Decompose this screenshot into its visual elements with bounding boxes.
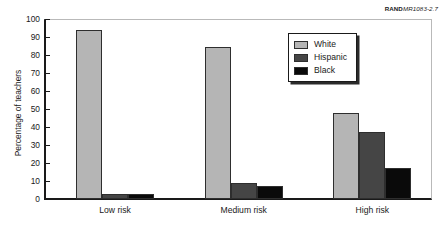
bar-black-medium-risk xyxy=(257,186,283,199)
legend-label-white: White xyxy=(314,40,336,49)
legend-swatch-black xyxy=(294,67,308,75)
y-tick-label: 50 xyxy=(31,104,40,114)
rand-source-id: RANDMR1083-2.7 xyxy=(385,5,438,12)
x-axis-label-medium-risk: Medium risk xyxy=(194,205,294,215)
legend-label-black: Black xyxy=(314,66,335,75)
x-axis-label-high-risk: High risk xyxy=(322,205,422,215)
legend-item-hispanic: Hispanic xyxy=(294,51,347,64)
bar-group-medium-risk xyxy=(205,19,283,199)
legend-label-hispanic: Hispanic xyxy=(314,53,347,62)
bar-black-high-risk xyxy=(385,168,411,199)
y-axis-title: Percentage of teachers xyxy=(13,33,23,193)
y-tick-label: 30 xyxy=(31,140,40,150)
y-tick-label: 40 xyxy=(31,122,40,132)
legend-swatch-hispanic xyxy=(294,54,308,62)
y-tick-label: 20 xyxy=(31,158,40,168)
y-tick-label: 80 xyxy=(31,50,40,60)
y-tick-label: 10 xyxy=(31,176,40,186)
y-tick-label: 100 xyxy=(26,14,40,24)
legend-item-black: Black xyxy=(294,64,347,77)
rand-source-id-bold: RAND xyxy=(385,5,403,12)
bar-hispanic-high-risk xyxy=(359,132,385,199)
bar-black-low-risk xyxy=(128,194,154,199)
bar-hispanic-medium-risk xyxy=(231,183,257,199)
y-tick-label: 60 xyxy=(31,86,40,96)
legend-swatch-white xyxy=(294,41,308,49)
y-tick-label: 90 xyxy=(31,32,40,42)
bar-white-high-risk xyxy=(333,113,359,199)
bar-group-low-risk xyxy=(76,19,154,199)
bar-white-low-risk xyxy=(76,30,102,199)
legend-item-white: White xyxy=(294,38,347,51)
figure-container: RANDMR1083-2.7 Percentage of teachers 10… xyxy=(0,0,442,252)
rand-source-id-italic: MR1083-2.7 xyxy=(403,5,438,12)
bar-hispanic-low-risk xyxy=(102,194,128,199)
y-tick-label: 0 xyxy=(35,194,40,204)
bar-white-medium-risk xyxy=(205,47,231,199)
x-axis-label-low-risk: Low risk xyxy=(65,205,165,215)
y-tick-label: 70 xyxy=(31,68,40,78)
bars-layer xyxy=(46,19,432,199)
chart-legend: WhiteHispanicBlack xyxy=(288,33,357,82)
